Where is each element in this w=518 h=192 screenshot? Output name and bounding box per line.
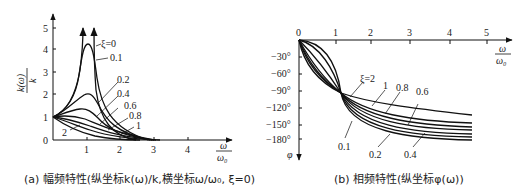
right-xtick-4: 4 bbox=[447, 27, 452, 38]
figure-canvas: 0 1 2 3 4 5 1 2 3 4 k(ω) k ω ω₀ bbox=[0, 0, 518, 192]
left-ytick-5: 5 bbox=[43, 23, 48, 34]
phase-label-xi-0.4: 0.4 bbox=[404, 149, 417, 160]
right-xtick-3: 3 bbox=[407, 27, 412, 38]
caption-amplitude: (a) 幅频特性(纵坐标k(ω)/k,横坐标ω/ω₀, ξ=0) bbox=[24, 170, 255, 186]
caption-phase: (b) 相频特性(纵坐标φ(ω)) bbox=[334, 170, 464, 186]
left-ylabel-num: k(ω) bbox=[15, 73, 27, 92]
left-ytick-4: 4 bbox=[43, 44, 48, 55]
right-xtick-5: 5 bbox=[484, 27, 489, 38]
label-xi-1: 1 bbox=[136, 120, 141, 131]
right-xtick-0: 0 bbox=[296, 27, 301, 38]
right-x-ticks bbox=[336, 40, 487, 44]
left-y-label: k(ω) k bbox=[15, 68, 38, 93]
left-xtick-2: 2 bbox=[117, 144, 122, 155]
left-ytick-1: 1 bbox=[43, 112, 48, 123]
left-xlabel-num: ω bbox=[220, 140, 227, 151]
label-xi-0.4: 0.4 bbox=[117, 88, 130, 99]
amplitude-frequency-chart: 0 1 2 3 4 5 1 2 3 4 k(ω) k ω ω₀ bbox=[15, 14, 232, 163]
right-ytick--60: −60° bbox=[271, 68, 291, 79]
phase-label-xi-0.2: 0.2 bbox=[369, 149, 382, 160]
right-ytick--30: −30° bbox=[271, 51, 291, 62]
right-ytick--180: −180° bbox=[266, 134, 291, 145]
phase-label-xi-0.6: 0.6 bbox=[416, 86, 429, 97]
label-xi-0.1: 0.1 bbox=[110, 52, 123, 63]
label-xi-0.2: 0.2 bbox=[117, 74, 130, 85]
right-ytick--90: −90° bbox=[271, 85, 291, 96]
left-xtick-4: 4 bbox=[185, 144, 190, 155]
right-xlabel-den: ω₀ bbox=[496, 55, 507, 66]
right-y-label: φ bbox=[287, 149, 293, 160]
right-xlabel-num: ω bbox=[499, 43, 506, 54]
left-ylabel-den: k bbox=[27, 78, 38, 83]
label-xi-2: 2 bbox=[62, 127, 67, 138]
left-ytick-0: 0 bbox=[43, 135, 48, 146]
phase-label-xi-0.1: 0.1 bbox=[338, 141, 351, 152]
left-ytick-2: 2 bbox=[43, 89, 48, 100]
left-xtick-1: 1 bbox=[84, 144, 89, 155]
label-xi-0: ξ=0 bbox=[101, 38, 116, 50]
right-x-label: ω ω₀ bbox=[495, 43, 511, 66]
right-xtick-1: 1 bbox=[333, 27, 338, 38]
left-ytick-3: 3 bbox=[43, 67, 48, 78]
phase-label-xi-0.8: 0.8 bbox=[396, 82, 409, 93]
right-ytick--150: −150° bbox=[266, 119, 291, 130]
phase-label-xi-2: ξ=2 bbox=[360, 73, 375, 85]
phase-frequency-chart: 0 1 2 3 4 5 −30° −60° −90° −120° −150° −… bbox=[266, 27, 512, 160]
left-xtick-3: 3 bbox=[151, 144, 156, 155]
left-x-label: ω ω₀ bbox=[216, 140, 232, 163]
phase-label-xi-1: 1 bbox=[383, 80, 388, 91]
left-xlabel-den: ω₀ bbox=[217, 152, 228, 163]
right-xtick-2: 2 bbox=[368, 27, 373, 38]
right-ytick--120: −120° bbox=[266, 102, 291, 113]
